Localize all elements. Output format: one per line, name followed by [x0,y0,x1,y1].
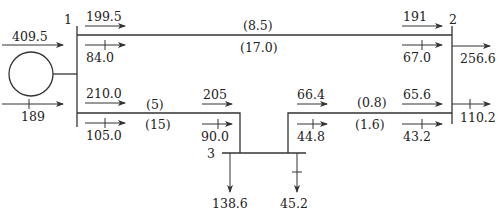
generator-circle-icon [9,52,53,96]
generator [9,52,77,96]
bus-2-label: 2 [449,12,457,27]
l32-q-from: 44.8 [297,119,327,144]
generator-reactive-flow: 189 [2,99,63,124]
svg-text:191: 191 [403,9,427,24]
svg-text:199.5: 199.5 [86,9,122,24]
line-3-2-p-loss: (0.8) [357,95,387,110]
svg-text:409.5: 409.5 [12,29,48,44]
svg-text:138.6: 138.6 [212,196,248,211]
svg-text:44.8: 44.8 [297,129,325,144]
line-1-2-p-loss: (8.5) [243,18,273,33]
bus-3-label: 3 [207,146,215,161]
bus-3-load-p: 138.6 [212,153,248,211]
line-3-2-q-loss: (1.6) [355,117,385,132]
svg-text:189: 189 [21,109,45,124]
svg-text:205: 205 [203,87,227,102]
svg-text:67.0: 67.0 [403,50,431,65]
l12-p-from: 199.5 [85,9,125,26]
svg-text:110.2: 110.2 [460,110,496,125]
svg-text:43.2: 43.2 [403,129,431,144]
svg-text:66.4: 66.4 [297,87,325,102]
line-1-3-q-loss: (15) [145,117,171,132]
svg-text:65.6: 65.6 [403,87,431,102]
l32-q-to: 43.2 [402,119,442,144]
l13-p-from: 210.0 [85,86,125,103]
svg-text:105.0: 105.0 [86,128,122,143]
l12-q-from: 84.0 [85,40,125,65]
bus-3: 3 [207,146,306,161]
svg-text:256.6: 256.6 [460,51,496,66]
svg-text:84.0: 84.0 [86,50,114,65]
l32-p-from: 66.4 [297,87,327,104]
l13-q-from: 105.0 [85,118,125,143]
bus-2-load-q: 110.2 [452,99,496,125]
svg-text:210.0: 210.0 [86,86,122,101]
bus-2-load-p: 256.6 [452,46,496,66]
l13-p-to: 205 [202,87,232,104]
l12-q-to: 67.0 [402,40,442,65]
generator-real-flow: 409.5 [2,29,63,45]
l13-q-to: 90.0 [201,119,232,144]
svg-text:90.0: 90.0 [201,129,229,144]
bus-2: 2 [449,12,457,124]
l32-p-to: 65.6 [402,87,442,104]
line-1-3: (5) (15) [77,97,240,153]
power-flow-diagram: 1 2 3 (8.5) (17.0) (5) (15) (0.8) (1.6) … [0,0,504,219]
line-1-3-p-loss: (5) [146,97,164,112]
bus-3-load-q: 45.2 [280,153,308,211]
line-1-2: (8.5) (17.0) [77,18,452,55]
bus-1-label: 1 [64,12,72,27]
svg-text:45.2: 45.2 [280,196,308,211]
line-1-2-q-loss: (17.0) [240,40,278,55]
l12-p-to: 191 [402,9,442,26]
bus-1: 1 [64,12,77,127]
